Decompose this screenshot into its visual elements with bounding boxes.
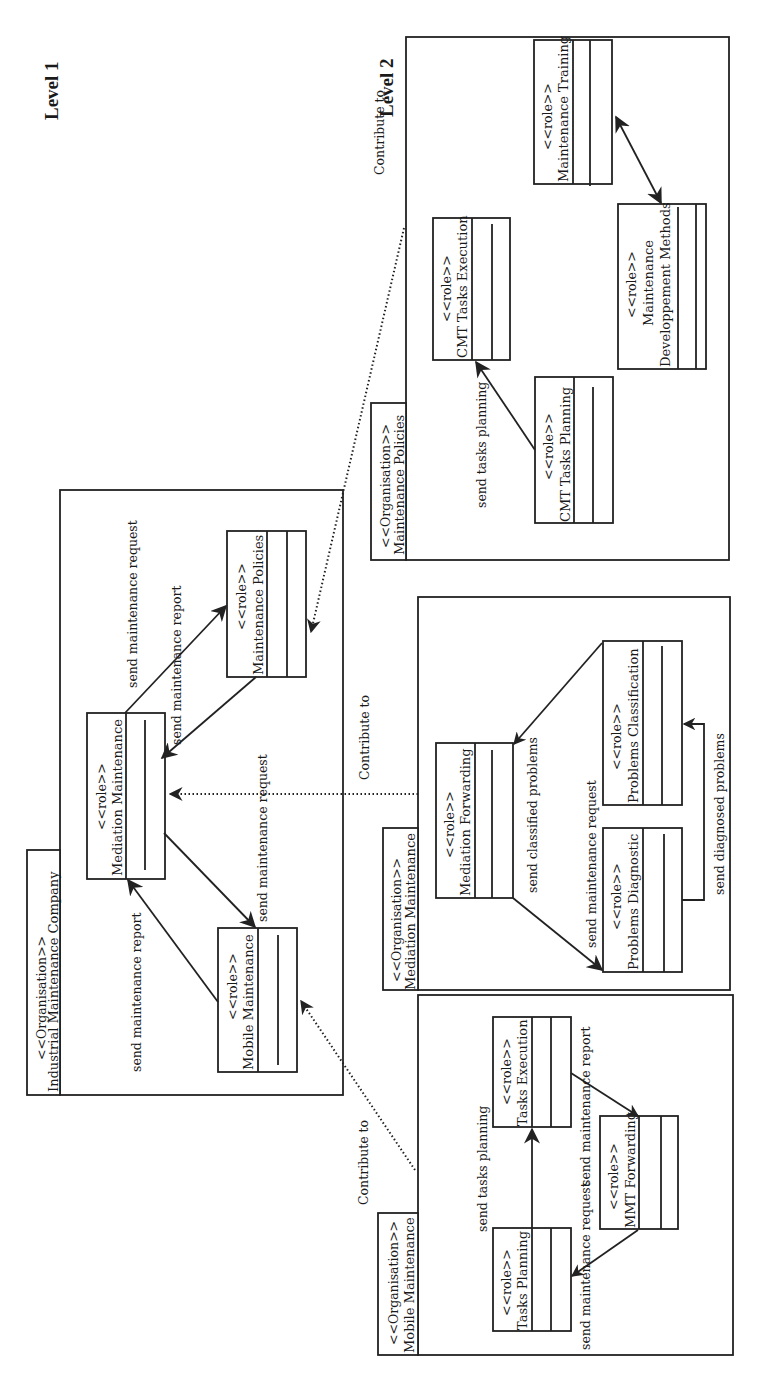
role-name: Mobile Maintenance [241,934,256,1070]
role-cmt-tasks-planning[interactable]: <<role>> CMT Tasks Planning [535,377,613,523]
message-label: send maintenance report [578,1027,593,1186]
contribute-label: Contribute to [357,695,372,780]
org-industrial-maintenance-company: <<Organisation>> Industrial Maintenance … [27,490,343,1095]
org-mobile-maintenance: <<Organisation>> Mobile Maintenance <<ro… [378,995,733,1355]
org-name: Industrial Maintenance Company [46,871,61,1092]
role-name: Tasks Execution [515,1019,530,1126]
role-stereotype: <<role>> [442,791,457,858]
role-stereotype: <<role>> [606,1143,621,1210]
message-label: send maintenance report [129,913,144,1072]
org-name: Mediation Maintenance [403,833,418,990]
role-name: Mediation Forwarding [458,748,473,896]
role-mmt-forwarding[interactable]: <<role>> MMT Forwarding [600,1112,678,1229]
message-label: send tasks planning [475,1106,490,1232]
role-stereotype: <<role>> [609,863,624,930]
role-name-line2: Developpement Methods [658,202,673,367]
message-label: send maintenance request [578,1182,593,1350]
role-stereotype: <<role>> [499,1038,514,1105]
org-frame [418,995,733,1355]
role-maintenance-policies[interactable]: <<role>> Maintenance Policies [227,531,306,677]
role-problems-diagnostic[interactable]: <<role>> Problems Diagnostic [603,828,682,972]
message-label: send maintenance report [169,586,184,745]
role-tasks-planning[interactable]: <<role>> Tasks Planning [493,1228,571,1331]
role-stereotype: <<role>> [234,563,249,630]
role-stereotype: <<role>> [609,703,624,770]
role-name: CMT Tasks Planning [558,387,573,522]
org-name: Maintenance Policies [392,415,407,555]
role-mediation-maintenance[interactable]: <<role>> Mediation Maintenance [87,713,165,879]
role-name: Maintenance Training [556,36,571,182]
role-stereotype: <<role>> [624,251,639,318]
role-name: Problems Classification [626,648,641,803]
role-name: MMT Forwarding [623,1112,638,1228]
message-label: send maintenance request [125,520,140,688]
contribute-label: Contribute to [356,1120,371,1205]
role-stereotype: <<role>> [225,953,240,1020]
role-mobile-maintenance[interactable]: <<role>> Mobile Maintenance [218,928,297,1072]
role-name: Tasks Planning [515,1231,530,1330]
role-stereotype: <<role>> [540,83,555,150]
role-name: CMT Tasks Execution [455,215,470,358]
org-mediation-maintenance: <<Organisation>> Mediation Maintenance <… [383,597,730,990]
role-stereotype: <<role>> [499,1249,514,1316]
role-name-line1: Maintenance [641,240,656,326]
message-label: send classified problems [525,737,540,893]
role-name: Maintenance Policies [251,535,266,675]
role-name: Mediation Maintenance [110,719,125,876]
org-maintenance-policies: <<Organisation>> Maintenance Policies <<… [371,36,729,560]
role-cmt-tasks-execution[interactable]: <<role>> CMT Tasks Execution [433,215,510,360]
role-maintenance-developpement-methods[interactable]: <<role>> Maintenance Developpement Metho… [618,202,706,369]
org-name: Mobile Maintenance [402,1217,417,1353]
role-stereotype: <<role>> [541,413,556,480]
role-maintenance-training[interactable]: <<role>> Maintenance Training [534,36,612,186]
level-1-label: Level 1 [41,61,62,120]
message-label: send tasks planning [474,382,489,508]
org-stereotype: <<Organisation>> [389,858,404,982]
role-mediation-forwarding[interactable]: <<role>> Mediation Forwarding [436,743,513,898]
diagram-canvas: Level 1 Level 2 <<Organisation>> Industr… [0,0,757,1380]
message-label: send maintenance request [255,754,270,922]
role-problems-classification[interactable]: <<role>> Problems Classification [603,641,682,805]
message-label: send diagnosed problems [712,733,727,895]
role-stereotype: <<role>> [439,255,454,322]
role-stereotype: <<role>> [94,763,109,830]
message-label: send maintenance request [584,780,599,948]
role-tasks-execution[interactable]: <<role>> Tasks Execution [493,1017,571,1127]
org-stereotype: <<Organisation>> [386,1221,401,1345]
role-name: Problems Diagnostic [626,834,641,970]
org-stereotype: <<Organisation>> [378,424,393,548]
contribute-label: Contribute to [372,90,387,175]
